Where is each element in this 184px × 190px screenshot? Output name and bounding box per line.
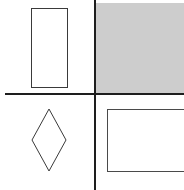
wide-rectangle-shape bbox=[107, 109, 184, 172]
horizontal-divider bbox=[5, 93, 184, 95]
vertical-divider bbox=[94, 0, 96, 190]
